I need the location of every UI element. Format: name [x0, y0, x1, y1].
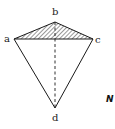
vertex-label-d: d: [52, 112, 59, 123]
hatched-triangle-abc: [14, 22, 93, 39]
vertex-label-b: b: [52, 6, 58, 17]
edge-ad: [14, 39, 55, 108]
edge-cd: [55, 39, 93, 108]
vertex-label-a: a: [4, 33, 10, 44]
kite-diagram: b a c d N: [0, 0, 115, 129]
clipped-text-fragment: N: [106, 94, 114, 104]
vertex-label-c: c: [95, 34, 101, 45]
